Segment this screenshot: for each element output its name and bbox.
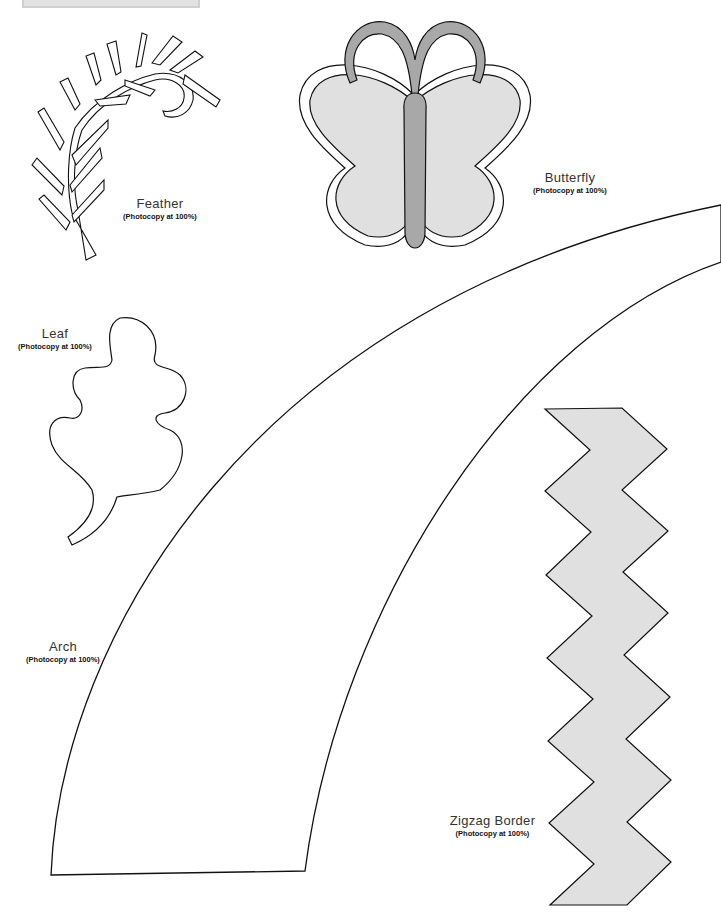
zigzag-label: Zigzag Border (Photocopy at 100%) <box>440 813 545 838</box>
feather-title: Feather <box>112 196 208 211</box>
zigzag-note: (Photocopy at 100%) <box>440 829 545 838</box>
arch-title: Arch <box>18 639 108 654</box>
butterfly-note: (Photocopy at 100%) <box>525 186 615 195</box>
arch-label: Arch (Photocopy at 100%) <box>18 639 108 664</box>
leaf-note: (Photocopy at 100%) <box>10 342 100 351</box>
arch-note: (Photocopy at 100%) <box>18 655 108 664</box>
leaf-title: Leaf <box>10 326 100 341</box>
leaf-label: Leaf (Photocopy at 100%) <box>10 326 100 351</box>
zigzag-title: Zigzag Border <box>440 813 545 828</box>
leaf-shape <box>50 318 186 545</box>
butterfly-label: Butterfly (Photocopy at 100%) <box>525 170 615 195</box>
feather-label: Feather (Photocopy at 100%) <box>112 196 208 221</box>
butterfly-shape <box>299 22 530 248</box>
templates-canvas <box>0 0 721 918</box>
butterfly-title: Butterfly <box>525 170 615 185</box>
feather-note: (Photocopy at 100%) <box>112 212 208 221</box>
feather-shape <box>32 33 220 260</box>
zigzag-shape <box>545 408 671 905</box>
